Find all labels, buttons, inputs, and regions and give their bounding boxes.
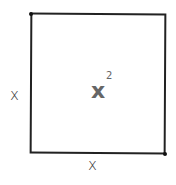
area-label-exponent: 2 — [106, 70, 112, 81]
corner-dot-bottom-right — [163, 152, 167, 156]
area-label-base: x — [91, 78, 105, 103]
left-side-label: x — [10, 86, 19, 104]
corner-dot-top-left — [29, 12, 33, 16]
bottom-side-label: x — [88, 156, 97, 174]
